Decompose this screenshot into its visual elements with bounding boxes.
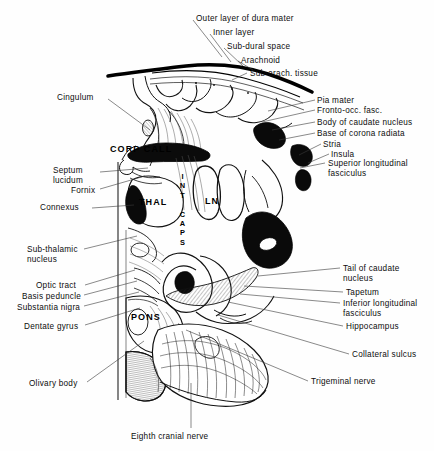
leader-line: [108, 99, 150, 130]
leader-line: [232, 73, 247, 80]
inline-label-corp-call: CORP CALL: [110, 144, 172, 154]
label-superior-longitudinal-fasciculus: Superior longitudinal fasciculus: [328, 159, 408, 178]
label-stria: Stria: [323, 140, 341, 150]
inline-label-pons: PONS: [131, 312, 161, 322]
label-base-of-corona-radiata: Base of corona radiata: [317, 129, 405, 139]
septum-fornix-group: [130, 167, 162, 184]
inline-label-thal: THAL: [139, 197, 167, 207]
label-septum-lucidum: Septum lucidum: [53, 166, 83, 185]
leader-line: [85, 270, 135, 285]
label-tail-of-caudate-nucleus: Tail of caudate nucleus: [343, 264, 400, 283]
leader-line: [258, 268, 340, 276]
label-collateral-sulcus: Collateral sulcus: [352, 350, 416, 360]
label-optic-tract: Optic tract: [36, 281, 76, 291]
label-fronto-occ-fasc: Fronto-occ. fasc.: [317, 106, 382, 116]
leader-line: [100, 176, 145, 189]
label-trigeminal-nerve: Trigeminal nerve: [311, 377, 376, 387]
label-hippocampus: Hippocampus: [346, 322, 399, 332]
label-inner-layer: Inner layer: [213, 28, 254, 38]
leader-line: [84, 292, 139, 306]
leader-line: [100, 168, 148, 172]
label-connexus: Connexus: [40, 203, 79, 213]
label-dentate-gyrus: Dentate gyrus: [24, 322, 78, 332]
leader-line: [244, 286, 343, 292]
inline-label-ln: LN: [205, 196, 219, 206]
label-fornix: Fornix: [71, 186, 95, 196]
label-olivary-body: Olivary body: [29, 379, 78, 389]
label-arachnoid: Arachnoid: [241, 56, 280, 66]
anatomical-figure: Outer layer of dura materInner layerSub-…: [0, 0, 434, 451]
leader-line: [240, 294, 340, 303]
leader-line: [262, 110, 315, 122]
label-substantia-nigra: Substantia nigra: [17, 303, 80, 313]
leader-line: [268, 100, 315, 111]
label-eighth-cranial-nerve: Eighth cranial nerve: [131, 432, 208, 442]
label-inferior-longitudinal-fasciculus: Inferior longitudinal fasciculus: [343, 299, 417, 318]
label-sub-arach-tissue: Sub-arach. tissue: [250, 69, 318, 79]
label-sub-thalamic-nucleus: Sub-thalamic nucleus: [27, 245, 78, 264]
label-basis-peduncle: Basis peduncle: [22, 292, 81, 302]
label-tapetum: Tapetum: [346, 288, 379, 298]
leader-line: [84, 236, 137, 249]
cerebellum: [150, 324, 268, 406]
vertical-label-int-caps: INT CAPS: [179, 172, 186, 247]
label-outer-layer-of-dura-mater: Outer layer of dura mater: [196, 14, 294, 24]
label-cingulum: Cingulum: [57, 93, 94, 103]
label-pia-mater: Pia mater: [317, 96, 354, 106]
label-body-of-caudate-nucleus: Body of caudate nucleus: [317, 118, 412, 128]
leader-line: [193, 20, 222, 57]
label-sub-dural-space: Sub-dural space: [227, 42, 290, 52]
